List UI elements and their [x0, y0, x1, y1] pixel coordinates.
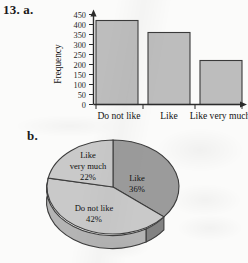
pie-label-do-not-like-percent: 42% [86, 214, 102, 224]
bar-chart-part-a: Frequency 450 400 350 300 250 200 150 10… [52, 8, 248, 126]
bar-do-not-like [96, 21, 138, 105]
problem-part-b-label: b. [27, 128, 38, 144]
bar-like-very-much [200, 61, 242, 105]
pie-label-like-percent: 36% [129, 184, 145, 194]
y-axis-ticks: 450 400 350 300 250 200 150 100 50 0 [74, 11, 93, 110]
pie-chart-svg: Like 36% Do not like 42% Like very much … [38, 131, 190, 259]
pie-label-like: Like 36% [129, 173, 145, 194]
y-tick-50: 50 [78, 91, 86, 100]
x-label-like-very-much: Like very much [190, 110, 248, 121]
bar-like [148, 33, 190, 105]
bar-chart-svg: Frequency 450 400 350 300 250 200 150 10… [52, 8, 248, 126]
problem-number-label: 13. a. [3, 2, 33, 18]
x-label-like: Like [160, 110, 178, 121]
y-tick-350: 350 [74, 31, 86, 40]
y-tick-0: 0 [82, 101, 86, 110]
x-label-do-not-like: Do not like [97, 110, 140, 121]
y-tick-450: 450 [74, 11, 86, 20]
pie-label-like-very-much-line2: very much [70, 161, 107, 171]
pie-label-do-not-like-name: Do not like [75, 203, 114, 213]
y-axis-arrowhead [90, 10, 96, 17]
pie-label-like-name: Like [129, 173, 145, 183]
x-axis-arrowhead [240, 102, 247, 108]
y-tick-400: 400 [74, 21, 86, 30]
y-tick-150: 150 [74, 71, 86, 80]
y-tick-300: 300 [74, 41, 86, 50]
pie-label-like-very-much-line1: Like [80, 150, 96, 160]
y-tick-250: 250 [74, 51, 86, 60]
y-tick-100: 100 [74, 81, 86, 90]
y-axis-title: Frequency [53, 44, 63, 84]
pie-chart-part-b: Like 36% Do not like 42% Like very much … [38, 131, 190, 259]
pie-label-like-very-much-percent: 22% [80, 172, 96, 182]
y-tick-200: 200 [74, 61, 86, 70]
